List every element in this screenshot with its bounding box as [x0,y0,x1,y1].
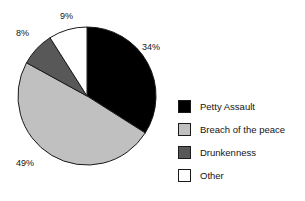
legend-label-other: Other [200,170,224,181]
legend-label-drunkenness: Drunkenness [200,147,256,158]
legend-swatch-breach-of-the-peace [178,123,191,136]
legend-swatch-petty-assault [178,100,191,113]
chart-legend: Petty Assault Breach of the peace Drunke… [178,95,302,187]
pie-chart: 34% 49% 8% 9% Petty Assault Breach of th… [0,0,305,201]
legend-item-other: Other [178,164,302,187]
legend-swatch-other [178,169,191,182]
slice-label-drunkenness: 8% [16,28,29,38]
legend-item-breach-of-the-peace: Breach of the peace [178,118,302,141]
legend-item-petty-assault: Petty Assault [178,95,302,118]
legend-label-petty-assault: Petty Assault [200,101,255,112]
legend-swatch-drunkenness [178,146,191,159]
slice-label-petty-assault: 34% [142,42,160,52]
legend-label-breach-of-the-peace: Breach of the peace [200,124,285,135]
legend-item-drunkenness: Drunkenness [178,141,302,164]
slice-label-breach-of-the-peace: 49% [16,158,34,168]
slice-label-other: 9% [60,11,73,21]
pie-slices [18,27,156,165]
